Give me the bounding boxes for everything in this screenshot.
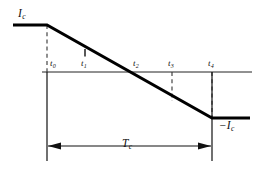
label-peak-negative: −Ic: [219, 120, 234, 132]
tick-label-t0: t0: [50, 59, 56, 68]
tick-label-t2: t2: [133, 59, 139, 68]
tick-label-t1: t1: [81, 59, 87, 68]
label-peak-positive: Ic: [18, 8, 25, 20]
tick-label-t4: t4: [208, 59, 214, 68]
arrowhead-left: [48, 143, 61, 150]
tick-label-t3: t3: [168, 59, 174, 68]
waveform-figure: Ic t0 t1 t2 t3 t4 −Ic Tc: [0, 0, 259, 176]
arrowhead-right: [198, 143, 211, 150]
label-period-tc: Tc: [122, 138, 132, 150]
